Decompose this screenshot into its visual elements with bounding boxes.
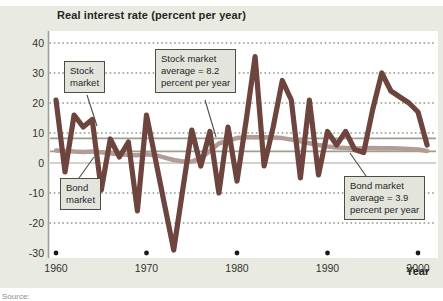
svg-text:-20: -20 bbox=[29, 217, 44, 229]
y-tick-labels: 403020100-10-20-30 bbox=[29, 37, 44, 259]
bond-market-callout: Bond market bbox=[60, 178, 101, 210]
source-note: Source: bbox=[2, 292, 30, 301]
svg-text:-10: -10 bbox=[29, 187, 44, 199]
stock-market-callout: Stock market bbox=[64, 61, 105, 93]
svg-text:20: 20 bbox=[32, 97, 44, 109]
svg-text:-30: -30 bbox=[29, 247, 44, 259]
svg-text:1990: 1990 bbox=[316, 262, 340, 274]
svg-text:10: 10 bbox=[32, 127, 44, 139]
stock-average-callout: Stock market average = 8.2 percent per y… bbox=[155, 49, 236, 93]
svg-text:0: 0 bbox=[38, 157, 44, 169]
svg-text:1980: 1980 bbox=[225, 262, 249, 274]
svg-text:1960: 1960 bbox=[44, 262, 68, 274]
svg-text:30: 30 bbox=[32, 67, 44, 79]
svg-text:1970: 1970 bbox=[135, 262, 159, 274]
x-tick-labels: 19601970198019902000 bbox=[44, 262, 430, 274]
x-axis-title: Year bbox=[406, 265, 429, 277]
svg-text:40: 40 bbox=[32, 37, 44, 49]
bond-average-callout: Bond market average = 3.9 percent per ye… bbox=[344, 176, 425, 220]
